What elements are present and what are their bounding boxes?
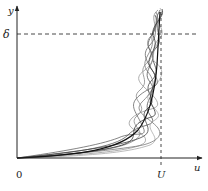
delta-label: δ (3, 28, 10, 41)
y-axis-label: y (7, 5, 14, 16)
boundary-layer-diagram: y δ 0 U u (0, 0, 208, 191)
instantaneous-profiles (17, 8, 163, 158)
origin-label: 0 (16, 169, 22, 180)
x-axis-label: u (194, 162, 200, 173)
U-label: U (157, 169, 166, 180)
